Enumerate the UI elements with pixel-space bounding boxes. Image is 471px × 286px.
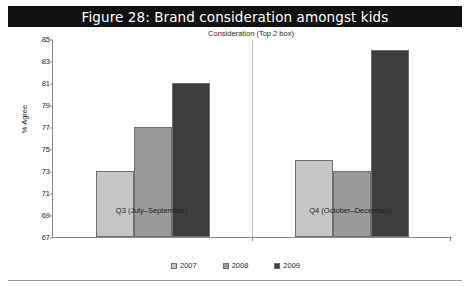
legend-label: 2007 <box>180 262 197 270</box>
figure-container: Figure 28: Brand consideration amongst k… <box>0 0 471 286</box>
y-axis-tick-label: 71 <box>42 190 50 198</box>
y-axis-tick-label: 85 <box>42 36 50 44</box>
y-axis-tick-label: 75 <box>42 146 50 154</box>
y-axis-tick-mark <box>50 172 53 173</box>
legend-item-2007[interactable]: 2007 <box>171 262 197 270</box>
x-axis-tick-mark <box>450 237 451 241</box>
legend-item-2009[interactable]: 2009 <box>274 262 300 270</box>
y-axis-tick-mark <box>50 238 53 239</box>
bar-2007-q4 <box>295 160 333 237</box>
chart-subtitle: Consideration (Top 2 box) <box>52 29 450 38</box>
legend-label: 2009 <box>283 262 300 270</box>
y-axis-tick-mark <box>50 106 53 107</box>
bar-2007-q3 <box>96 171 134 237</box>
bar-2008-q4 <box>333 171 371 237</box>
y-axis-tick-label: 67 <box>42 234 50 242</box>
y-axis-tick-label: 73 <box>42 168 50 176</box>
y-axis-tick-label: 79 <box>42 102 50 110</box>
y-axis-tick-mark <box>50 128 53 129</box>
legend-swatch-icon <box>171 263 177 269</box>
legend-swatch-icon <box>223 263 229 269</box>
group-separator <box>252 40 253 237</box>
y-axis-tick-label: 69 <box>42 212 50 220</box>
legend-label: 2008 <box>232 262 249 270</box>
y-axis-label: % Agree <box>20 105 29 133</box>
legend-item-2008[interactable]: 2008 <box>223 262 249 270</box>
bar-2008-q3 <box>134 127 172 237</box>
y-axis-tick-mark <box>50 40 53 41</box>
y-axis-tick-mark <box>50 216 53 217</box>
y-axis-tick-mark <box>50 62 53 63</box>
figure-title-bar: Figure 28: Brand consideration amongst k… <box>8 6 462 27</box>
y-axis-tick-mark <box>50 84 53 85</box>
x-axis-category-label: Q4 (October–December) <box>309 206 392 215</box>
x-axis-category-label: Q3 (July–September) <box>116 206 187 215</box>
y-axis-tick-label: 83 <box>42 58 50 66</box>
page-title: Figure 28: Brand consideration amongst k… <box>82 9 389 25</box>
y-axis-tick-label: 77 <box>42 124 50 132</box>
footer-divider <box>8 280 462 281</box>
y-axis-tick-mark <box>50 150 53 151</box>
chart-legend: 200720082009 <box>0 262 471 270</box>
y-axis-tick-label: 81 <box>42 80 50 88</box>
x-axis-tick-mark <box>252 237 253 241</box>
legend-swatch-icon <box>274 263 280 269</box>
y-axis-tick-mark <box>50 194 53 195</box>
